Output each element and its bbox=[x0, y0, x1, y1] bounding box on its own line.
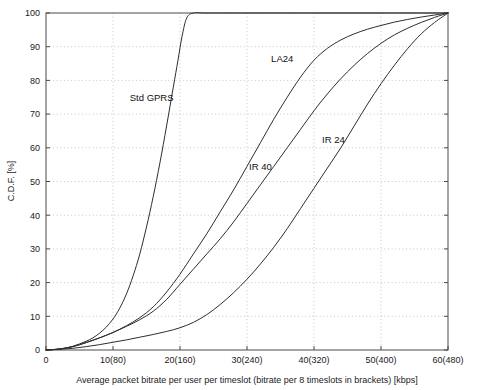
cdf-chart-svg: 0102030405060708090100 010(80)20(160)30(… bbox=[0, 0, 481, 390]
x-tick-label: 20(160) bbox=[164, 355, 195, 365]
cdf-figure: 0102030405060708090100 010(80)20(160)30(… bbox=[0, 0, 481, 390]
figure-background bbox=[0, 0, 481, 390]
y-tick-label: 100 bbox=[25, 8, 40, 18]
y-tick-label: 60 bbox=[30, 143, 40, 153]
x-axis-label: Average packet bitrate per user per time… bbox=[76, 375, 418, 385]
x-tick-label: 60(480) bbox=[432, 355, 463, 365]
y-tick-label: 90 bbox=[30, 42, 40, 52]
y-tick-label: 70 bbox=[30, 109, 40, 119]
curve-label-std-gprs: Std GPRS bbox=[130, 92, 174, 103]
y-tick-label: 10 bbox=[30, 312, 40, 322]
y-tick-label: 0 bbox=[35, 345, 40, 355]
curve-label-ir-40: IR 40 bbox=[249, 161, 272, 172]
x-tick-label: 0 bbox=[43, 355, 48, 365]
y-tick-label: 80 bbox=[30, 76, 40, 86]
x-tick-label: 50(400) bbox=[365, 355, 396, 365]
curve-label-la24: LA24 bbox=[271, 53, 293, 64]
x-tick-label: 40(320) bbox=[298, 355, 329, 365]
x-tick-label: 30(240) bbox=[231, 355, 262, 365]
x-tick-label: 10(80) bbox=[100, 355, 126, 365]
y-tick-label: 30 bbox=[30, 244, 40, 254]
y-tick-label: 40 bbox=[30, 211, 40, 221]
curve-label-ir-24: IR 24 bbox=[322, 134, 345, 145]
y-tick-label: 20 bbox=[30, 278, 40, 288]
y-axis-label: C.D.F. [%] bbox=[6, 161, 16, 202]
y-tick-label: 50 bbox=[30, 177, 40, 187]
